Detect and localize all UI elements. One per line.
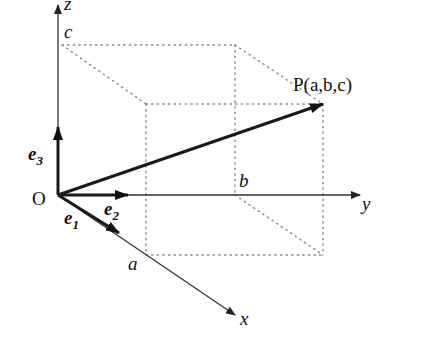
x-axis-label: x — [239, 308, 249, 329]
y-axis-label: y — [360, 193, 371, 214]
e1-label: e1 — [64, 207, 79, 232]
e3-label: e3 — [28, 143, 43, 168]
e2-label: e2 — [104, 198, 119, 223]
b-tick-label: b — [239, 170, 249, 191]
e3-subscript: 3 — [35, 153, 43, 168]
position-vector-op — [58, 104, 323, 195]
origin-label: O — [32, 188, 46, 209]
c-tick-label: c — [64, 21, 73, 42]
e1-subscript: 1 — [72, 217, 79, 232]
coordinate-diagram: z c y b x a O P(a,b,c) e3 e2 e1 — [0, 0, 425, 355]
box-edge-bottom-right — [235, 195, 323, 255]
z-axis-label: z — [63, 0, 72, 14]
a-tick-label: a — [128, 253, 138, 274]
box-edge-top-left — [62, 45, 146, 104]
e2-subscript: 2 — [111, 208, 119, 223]
point-p-label: P(a,b,c) — [293, 74, 352, 96]
